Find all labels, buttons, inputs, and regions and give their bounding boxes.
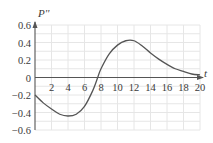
x-tick-label: 8 (98, 82, 103, 93)
y-tick-label: −0.4 (12, 108, 32, 119)
x-tick-label: 12 (129, 82, 140, 93)
y-tick-label: 0.4 (18, 38, 32, 49)
x-tick-label: 18 (178, 82, 189, 93)
x-tick-label: 14 (145, 82, 156, 93)
y-tick-label: 0.6 (18, 20, 31, 31)
x-tick-label: 6 (82, 82, 87, 93)
y-tick-label: −0.6 (12, 125, 31, 136)
y-tick-label: 0 (26, 73, 31, 84)
x-tick-label: 16 (162, 82, 173, 93)
x-tick-label: 2 (49, 82, 54, 93)
x-axis-label: t (204, 67, 208, 79)
x-tick-label: 10 (112, 82, 123, 93)
x-tick-label: 4 (65, 82, 71, 93)
line-chart: 24681012141618200.60.40.20−0.2−0.4−0.6 P… (0, 0, 213, 143)
y-axis-label: P'' (37, 7, 50, 19)
x-tick-label: 20 (195, 82, 206, 93)
y-tick-label: −0.2 (12, 90, 31, 101)
y-tick-label: 0.2 (18, 55, 31, 66)
